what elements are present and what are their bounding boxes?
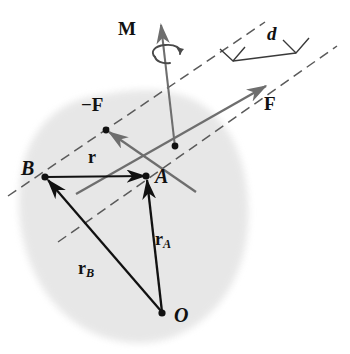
force-application-dot xyxy=(172,143,179,150)
moment-label: M xyxy=(118,19,136,38)
vector-rb-main: r xyxy=(78,258,86,278)
vector-ra-sub: A xyxy=(163,237,171,251)
force-f-label: F xyxy=(264,94,276,113)
point-b-label: B xyxy=(21,158,34,178)
position-vector-r xyxy=(46,176,145,177)
point-o-label: O xyxy=(174,305,188,325)
point-b-dot xyxy=(41,173,48,180)
vector-ra-main: r xyxy=(155,229,163,249)
moment-rotation-arrow xyxy=(153,45,184,63)
point-a-dot xyxy=(142,172,149,179)
mechanics-couple-figure: M d F −F B A O r rA rB xyxy=(0,0,350,354)
distance-dimension-group xyxy=(220,38,309,61)
distance-label: d xyxy=(267,24,277,43)
point-o-dot xyxy=(158,309,165,316)
point-a-label: A xyxy=(155,166,168,186)
right-angle-tick-left xyxy=(220,47,245,49)
vector-rb-sub: B xyxy=(86,266,94,280)
vector-ra-label: rA xyxy=(155,230,171,251)
dimension-line-d xyxy=(233,53,296,61)
vector-rb-label: rB xyxy=(78,259,94,280)
figure-canvas xyxy=(0,0,350,354)
rigid-body-blob xyxy=(19,90,248,343)
force-neg-f-label: −F xyxy=(81,95,103,114)
neg-force-application-dot xyxy=(103,127,110,134)
vector-r-label: r xyxy=(88,148,96,166)
right-angle-marker-right xyxy=(283,38,309,53)
